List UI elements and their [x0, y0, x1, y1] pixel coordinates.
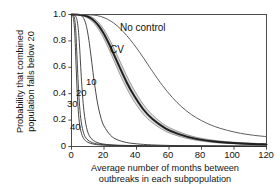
ytick-label: 0.8 — [40, 35, 66, 45]
y-axis-title: Probability that combined population fal… — [15, 8, 36, 156]
annotation-curve-20: 20 — [76, 88, 87, 98]
xtick-label: 120 — [254, 150, 278, 160]
xtick-label: 20 — [92, 150, 114, 160]
chart-figure: 1.0 0.8 0.6 0.4 0.2 0 0 20 40 60 80 100 … — [0, 0, 280, 192]
annotation-curve-40: 40 — [70, 122, 81, 132]
x-axis-title-line2: outbreaks in each subpopulation — [58, 174, 272, 185]
xtick-label: 40 — [124, 150, 146, 160]
ytick-label: 1.0 — [40, 9, 66, 19]
annotation-curve-10: 10 — [86, 77, 97, 87]
xtick-label: 60 — [157, 150, 179, 160]
xtick-label: 100 — [221, 150, 243, 160]
annotation-cv: CV — [110, 44, 124, 55]
y-axis-title-line1: Probability that combined — [15, 8, 26, 156]
x-axis-title-line1: Average number of months between — [58, 163, 272, 174]
y-axis-title-line2: population falls below 20 — [25, 8, 36, 156]
annotation-no-control: No control — [120, 22, 166, 33]
ytick-label: 0.6 — [40, 61, 66, 71]
xtick-label: 80 — [189, 150, 211, 160]
xtick-label: 0 — [60, 150, 82, 160]
ytick-label: 0.2 — [40, 114, 66, 124]
ytick-label: 0.4 — [40, 88, 66, 98]
annotation-curve-30: 30 — [67, 99, 78, 109]
